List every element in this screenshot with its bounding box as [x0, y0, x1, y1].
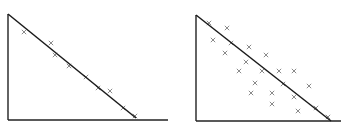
x-marker-icon [49, 41, 53, 45]
x-marker-icon [264, 53, 268, 57]
x-marker-icon [296, 109, 300, 113]
x-marker-icon [253, 81, 257, 85]
x-marker-icon [292, 95, 296, 99]
regression-line [196, 15, 331, 121]
x-marker-icon [22, 30, 26, 34]
x-marker-icon [223, 51, 227, 55]
data-points [207, 21, 330, 119]
x-marker-icon [225, 26, 229, 30]
x-marker-icon [307, 84, 311, 88]
regression-line [8, 14, 136, 118]
x-marker-icon [108, 89, 112, 93]
x-marker-icon [249, 91, 253, 95]
scatter-charts [0, 0, 342, 132]
x-marker-icon [244, 60, 248, 64]
x-marker-icon [277, 69, 281, 73]
x-marker-icon [292, 69, 296, 73]
scatter-chart-strong-correlation [8, 14, 168, 120]
x-marker-icon [260, 69, 264, 73]
scatter-chart-weak-correlation [196, 15, 341, 121]
x-marker-icon [270, 102, 274, 106]
x-marker-icon [211, 38, 215, 42]
x-marker-icon [237, 69, 241, 73]
x-marker-icon [247, 45, 251, 49]
x-marker-icon [270, 91, 274, 95]
